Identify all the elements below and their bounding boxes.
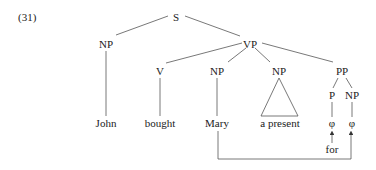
tree-branches [106,16,352,117]
node-second-np: NP [272,65,286,77]
leaf-bought: bought [145,117,176,129]
node-subject-np: NP [99,38,113,50]
leaf-p-empty: φ [329,117,335,129]
leaf-for: for [326,143,339,155]
example-number: (31) [18,11,37,24]
leaf-np-empty: φ [349,117,355,129]
triangle-abbreviation [261,78,298,116]
syntax-tree-diagram: (31) S NP VP V NP NP PP P NP John bought… [0,0,376,170]
node-object-np: NP [210,65,224,77]
leaf-a-present: a present [260,117,299,129]
leaf-mary: Mary [205,117,229,129]
node-v: V [156,65,164,77]
node-p: P [329,89,335,101]
node-s: S [173,11,179,23]
leaf-john: John [96,117,117,129]
node-pp-np: NP [345,89,359,101]
node-pp: PP [336,65,348,77]
